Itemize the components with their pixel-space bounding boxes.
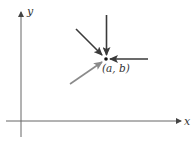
point-label: (a, b): [102, 62, 130, 74]
point-ab: [104, 57, 108, 61]
x-axis-label: x: [184, 115, 191, 128]
arrow-from-upper-left: [76, 29, 102, 55]
arrow-from-lower-left: [70, 62, 102, 84]
limit-diagram: y x (a, b): [0, 0, 195, 144]
diagram-svg: y x (a, b): [0, 0, 195, 144]
y-axis-label: y: [26, 5, 34, 18]
